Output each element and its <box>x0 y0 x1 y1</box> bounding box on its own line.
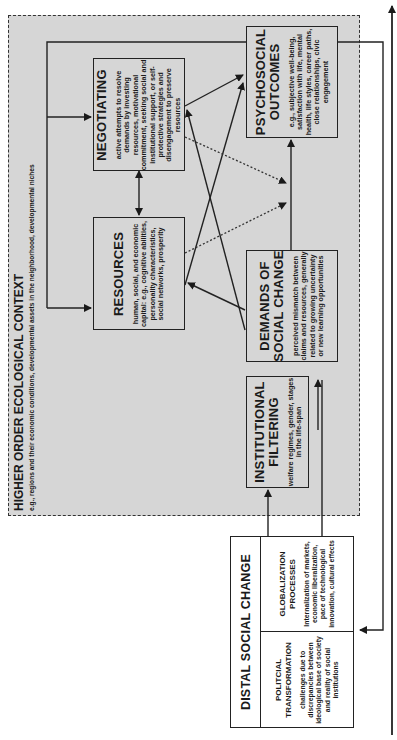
demands-title-line1: DEMANDS OF <box>258 250 272 362</box>
resources-title: RESOURCES <box>112 217 126 330</box>
globalization-cell: GLOBALIZATION PROCESSES Internalization … <box>261 537 353 632</box>
distal-title: DISTAL SOCIAL CHANGE <box>239 537 253 727</box>
globalization-title-line2: PROCESSES <box>288 538 298 630</box>
node-demands-of-social-change: DEMANDS OF SOCIAL CHANGE perceived misma… <box>246 250 338 362</box>
outcomes-description: e.g., subjective well-being, satisfactio… <box>288 26 330 138</box>
context-label: HIGHER ORDER ECOLOGICAL CONTEXT e.g., re… <box>13 23 43 523</box>
demands-description: perceived mismatch between claims and re… <box>292 250 326 362</box>
political-cell: POLITCIAL TRANSFORMATION challenges due … <box>261 632 353 727</box>
node-psychosocial-outcomes: PSYCHOSOCIAL OUTCOMES e.g., subjective w… <box>246 26 338 138</box>
globalization-description: Internalization of markets, economic lib… <box>303 538 336 630</box>
node-negotiating: NEGOTIATING active attempts to resolve d… <box>93 58 185 171</box>
political-title-line1: POLITCIAL <box>274 634 284 726</box>
filtering-description: welfare regimes, gender, stages in the l… <box>286 376 303 488</box>
political-title-line2: TRANSFORMATION <box>283 634 293 726</box>
outcomes-title-line1: PSYCHOSOCIAL <box>254 26 268 138</box>
outcomes-title-line2: OUTCOMES <box>268 26 282 138</box>
node-resources: RESOURCES human, social, and economic ca… <box>93 217 185 330</box>
context-subtitle: e.g., regions and their economic conditi… <box>28 164 36 511</box>
distal-title-cell: DISTAL SOCIAL CHANGE <box>231 537 261 727</box>
demands-title-line2: SOCIAL CHANGE <box>272 250 286 362</box>
filtering-title-line1: INSTITUTIONAL <box>252 376 266 488</box>
node-distal-social-change: DISTAL SOCIAL CHANGE GLOBALIZATION PROCE… <box>230 536 354 728</box>
context-title: HIGHER ORDER ECOLOGICAL CONTEXT <box>13 164 26 511</box>
node-institutional-filtering: INSTITUTIONAL FILTERING welfare regimes,… <box>246 376 309 488</box>
filtering-title-line2: FILTERING <box>266 376 280 488</box>
negotiating-title: NEGOTIATING <box>95 58 109 171</box>
resources-description: human, social, and economic capital: e.g… <box>132 217 166 330</box>
globalization-title-line1: GLOBALIZATION <box>278 538 288 630</box>
social-change-model-diagram: HIGHER ORDER ECOLOGICAL CONTEXT e.g., re… <box>0 0 397 740</box>
negotiating-description: active attempts to resolve demands by in… <box>115 58 182 171</box>
political-description: challenges due to discrepancies between … <box>299 634 340 726</box>
